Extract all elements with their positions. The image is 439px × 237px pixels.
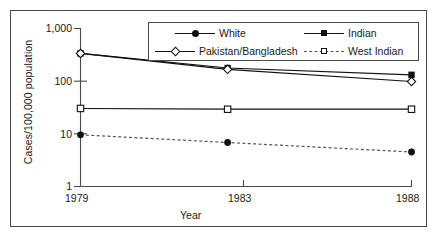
legend-item-indian[interactable]: Indian [304,24,377,42]
filled-square-icon [321,30,328,37]
figure: Cases/100,000 population Year 1,000 100 … [0,0,439,237]
series-line [81,135,412,152]
marker-open-square [408,106,414,112]
legend: White Indian Pakistan/Bangladesh West [148,22,419,61]
series-west-indian [77,105,414,112]
legend-label-pakistan-bangladesh: Pakistan/Bangladesh [199,45,298,57]
marker-open-diamond [407,77,415,85]
legend-item-white[interactable]: White [175,24,246,42]
open-square-icon [321,48,328,55]
marker-open-square [77,105,83,111]
legend-label-west-indian: West Indian [348,45,403,57]
series-line [81,109,412,110]
legend-item-pakistan-bangladesh[interactable]: Pakistan/Bangladesh [155,42,298,60]
marker-filled-circle [77,131,84,138]
legend-swatch-west-indian [304,46,344,56]
series-white [77,131,415,155]
open-diamond-icon [170,46,180,56]
legend-label-indian: Indian [348,27,377,39]
legend-label-white: White [219,27,246,39]
marker-filled-circle [224,139,231,146]
marker-filled-circle [408,149,415,156]
legend-swatch-white [175,28,215,38]
legend-swatch-pakistan-bangladesh [155,46,195,56]
legend-swatch-indian [304,28,344,38]
legend-item-west-indian[interactable]: West Indian [304,42,403,60]
data-series-layer [76,49,415,155]
filled-circle-icon [192,30,199,37]
marker-open-square [224,106,230,112]
